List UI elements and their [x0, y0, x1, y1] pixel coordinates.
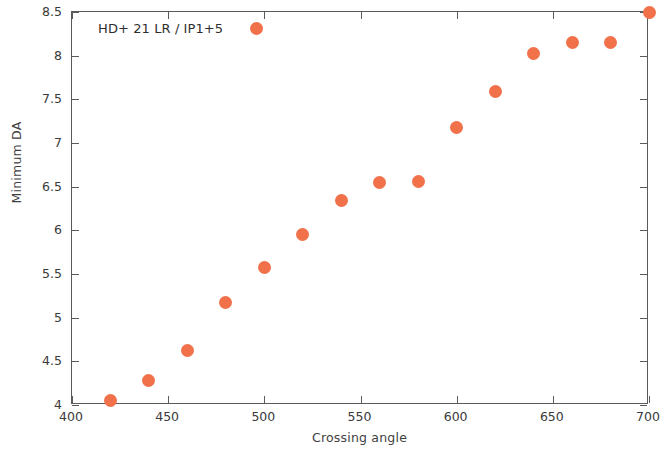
y-axis-tick [640, 361, 647, 362]
y-axis-tick [72, 99, 79, 100]
plot-annotation-label: HD+ 21 LR / IP1+5 [98, 21, 223, 36]
y-axis-tick [640, 230, 647, 231]
data-point [296, 228, 309, 241]
y-axis-tick [640, 99, 647, 100]
x-axis-tick [72, 396, 73, 403]
data-point [643, 6, 656, 19]
y-axis-tick [72, 12, 79, 13]
data-point [604, 36, 617, 49]
y-axis-tick [72, 187, 79, 188]
y-axis-tick-label: 5 [16, 309, 62, 324]
x-axis-tick [168, 12, 169, 19]
x-axis-tick [72, 12, 73, 19]
x-axis-tick-label: 450 [137, 409, 197, 424]
x-axis-title: Crossing angle [71, 430, 648, 445]
y-axis-tick [640, 405, 647, 406]
y-axis-tick-label: 8 [16, 47, 62, 62]
data-point [104, 394, 117, 407]
data-point [258, 261, 271, 274]
y-axis-tick [72, 361, 79, 362]
x-axis-tick [553, 396, 554, 403]
y-axis-tick-label: 7.5 [16, 91, 62, 106]
data-point [566, 36, 579, 49]
data-point [527, 47, 540, 60]
data-point [142, 374, 155, 387]
y-axis-tick [72, 230, 79, 231]
x-axis-tick-label: 700 [618, 409, 664, 424]
x-axis-tick-label: 600 [426, 409, 486, 424]
x-axis-tick-label: 550 [330, 409, 390, 424]
data-point [250, 22, 263, 35]
y-axis-tick [72, 56, 79, 57]
y-axis-tick-label: 6 [16, 222, 62, 237]
y-axis-tick [72, 274, 79, 275]
y-axis-tick [640, 56, 647, 57]
data-point [373, 176, 386, 189]
y-axis-tick-label: 5.5 [16, 266, 62, 281]
x-axis-tick [457, 396, 458, 403]
y-axis-tick-label: 6.5 [16, 178, 62, 193]
x-axis-tick-label: 650 [522, 409, 582, 424]
data-point [489, 85, 502, 98]
x-axis-tick-label: 500 [233, 409, 293, 424]
x-axis-tick [649, 396, 650, 403]
x-axis-tick-label: 400 [41, 409, 101, 424]
x-axis-tick [264, 396, 265, 403]
x-axis-tick [361, 396, 362, 403]
x-axis-tick [553, 12, 554, 19]
data-point [219, 296, 232, 309]
y-axis-tick-label: 8.5 [16, 4, 62, 19]
y-axis-tick [72, 318, 79, 319]
y-axis-tick-label: 7 [16, 135, 62, 150]
y-axis-tick [640, 318, 647, 319]
x-axis-tick [168, 396, 169, 403]
data-point [412, 175, 425, 188]
y-axis-tick [72, 405, 79, 406]
x-axis-tick [457, 12, 458, 19]
plot-area: HD+ 21 LR / IP1+5 [71, 11, 648, 404]
x-axis-tick [264, 12, 265, 19]
y-axis-tick [640, 274, 647, 275]
y-axis-tick-label: 4.5 [16, 353, 62, 368]
y-axis-tick [72, 143, 79, 144]
data-point [450, 121, 463, 134]
y-axis-title: Minimum DA [9, 103, 24, 223]
x-axis-tick [361, 12, 362, 19]
data-point [335, 194, 348, 207]
data-point [181, 344, 194, 357]
y-axis-tick [640, 143, 647, 144]
y-axis-tick [640, 187, 647, 188]
